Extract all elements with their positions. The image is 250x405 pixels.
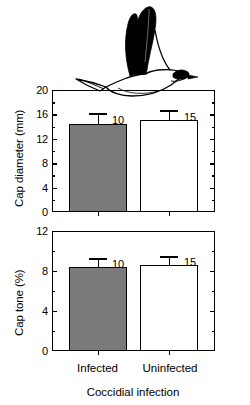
xtick-bottom-uninfected xyxy=(169,351,170,355)
panel-cap-tone: Cap tone (%) 12 8 4 0 10 15 xyxy=(0,224,250,359)
tick-right-8 xyxy=(210,163,215,164)
ytick-label-0: 0 xyxy=(42,207,48,218)
sample-size-top-infected: 10 xyxy=(112,115,124,126)
tick-left-tone-minor-10 xyxy=(52,251,55,252)
sample-size-bottom-infected: 10 xyxy=(112,259,124,270)
bar-top-infected xyxy=(69,124,127,212)
tick-right-tone-minor-6 xyxy=(212,291,215,292)
tick-left-minor-18 xyxy=(52,102,55,103)
xtick-label-infected: Infected xyxy=(77,362,118,374)
ytick-label-tone-12: 12 xyxy=(36,226,48,237)
tick-left-tone-minor-6 xyxy=(52,291,55,292)
tick-left-16 xyxy=(52,114,57,115)
tick-left-tone-8 xyxy=(52,271,57,272)
x-axis-title: Coccidial infection xyxy=(87,386,180,398)
ytick-label-tone-0: 0 xyxy=(42,346,48,357)
ytick-label-16: 16 xyxy=(36,109,48,120)
xtick-bottom-infected xyxy=(98,351,99,355)
ytick-label-8: 8 xyxy=(42,158,48,169)
errorbar-stem-top-infected xyxy=(98,113,100,124)
tick-right-16 xyxy=(210,114,215,115)
errorbar-cap-top-uninfected xyxy=(160,110,178,112)
y-axis-title-cap-tone: Cap tone (%) xyxy=(13,269,25,336)
xtick-top-infected xyxy=(98,212,99,216)
errorbar-cap-top-infected xyxy=(89,113,107,115)
ytick-label-20: 20 xyxy=(36,85,48,96)
tick-left-minor-6 xyxy=(52,175,55,176)
ytick-label-tone-4: 4 xyxy=(42,306,48,317)
panel-cap-diameter: Cap diameter (mm) 20 16 12 8 4 0 xyxy=(0,82,250,218)
tick-left-8 xyxy=(52,163,57,164)
bar-top-uninfected xyxy=(140,120,198,212)
bar-bottom-infected xyxy=(69,267,127,351)
tick-left-minor-10 xyxy=(52,151,55,152)
tick-right-minor-6 xyxy=(212,175,215,176)
tick-right-tone-8 xyxy=(210,271,215,272)
ytick-label-4: 4 xyxy=(42,182,48,193)
figure-container: Cap diameter (mm) 20 16 12 8 4 0 xyxy=(0,0,250,405)
tick-right-4 xyxy=(210,188,215,189)
tick-left-tone-minor-2 xyxy=(52,331,55,332)
y-axis-ticklabels-bottom: 12 8 4 0 xyxy=(26,224,48,359)
xtick-top-uninfected xyxy=(169,212,170,216)
sample-size-bottom-uninfected: 15 xyxy=(184,257,196,268)
tick-left-minor-14 xyxy=(52,127,55,128)
xtick-label-uninfected: Uninfected xyxy=(143,362,198,374)
tick-left-tone-4 xyxy=(52,311,57,312)
ytick-label-tone-8: 8 xyxy=(42,266,48,277)
tick-right-minor-2 xyxy=(212,200,215,201)
tick-right-minor-18 xyxy=(212,102,215,103)
tick-right-minor-10 xyxy=(212,151,215,152)
tick-right-tone-minor-10 xyxy=(212,251,215,252)
y-axis-title-cap-diameter: Cap diameter (mm) xyxy=(13,110,25,207)
errorbar-cap-bottom-infected xyxy=(89,258,107,260)
tick-right-tone-4 xyxy=(210,311,215,312)
tick-left-minor-2 xyxy=(52,200,55,201)
tick-right-tone-minor-2 xyxy=(212,331,215,332)
bar-bottom-uninfected xyxy=(140,265,198,351)
errorbar-cap-bottom-uninfected xyxy=(160,256,178,258)
sample-size-top-uninfected: 15 xyxy=(184,112,196,123)
tick-right-minor-14 xyxy=(212,127,215,128)
tick-left-12 xyxy=(52,139,57,140)
y-axis-ticklabels-top: 20 16 12 8 4 0 xyxy=(26,82,48,218)
tick-right-12 xyxy=(210,139,215,140)
ytick-label-12: 12 xyxy=(36,133,48,144)
tick-left-4 xyxy=(52,188,57,189)
